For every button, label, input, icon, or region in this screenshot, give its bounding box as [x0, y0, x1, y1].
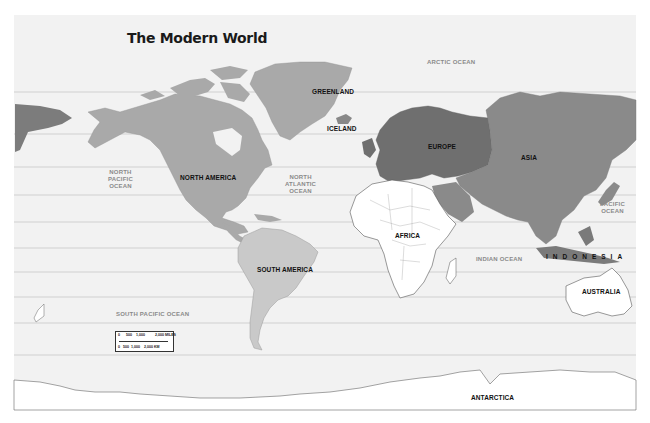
scale-miles-500: 500	[126, 333, 132, 337]
landmass-north-america	[88, 94, 272, 234]
label-north-atlantic-ocean: NORTH ATLANTIC OCEAN	[285, 174, 316, 195]
landmass-british-isles	[362, 138, 376, 158]
map-title: The Modern World	[127, 30, 267, 46]
landmass-madagascar	[446, 258, 456, 284]
label-north-pacific-ocean: NORTH PACIFIC OCEAN	[108, 169, 133, 190]
landmass-chukotka	[15, 104, 72, 152]
scale-km-0: 0	[118, 345, 120, 349]
scale-miles-0: 0	[118, 333, 120, 337]
scale-miles-2000: 2,000 MILES	[155, 333, 176, 337]
label-north-america: NORTH AMERICA	[180, 174, 236, 181]
world-map: The Modern World GREENLAND ICELAND NORTH…	[0, 0, 650, 423]
landmass-south-america	[238, 228, 318, 350]
scale-bar: 0 500 1,000 2,000 MILES 0 500 1,000 2,00…	[115, 331, 174, 352]
label-asia: ASIA	[521, 154, 537, 161]
landmass-iceland	[336, 114, 352, 124]
label-europe: EUROPE	[428, 143, 456, 150]
label-greenland: GREENLAND	[312, 88, 354, 95]
label-south-america: SOUTH AMERICA	[257, 266, 313, 273]
label-antarctica: ANTARCTICA	[471, 394, 514, 401]
scale-km-500: 500	[123, 345, 129, 349]
label-indonesia: INDONESIA	[546, 253, 627, 260]
label-arctic-ocean: ARCTIC OCEAN	[427, 59, 475, 66]
label-africa: AFRICA	[395, 232, 420, 239]
landmass-antarctica	[14, 370, 636, 410]
map-geography	[0, 0, 650, 423]
label-pacific-ocean: PACIFIC OCEAN	[600, 201, 625, 215]
scale-line	[119, 341, 168, 342]
landmass-asia	[456, 92, 636, 244]
label-iceland: ICELAND	[327, 125, 357, 132]
landmass-new-zealand	[34, 304, 44, 322]
scale-km-1000: 1,000	[131, 345, 140, 349]
scale-miles-1000: 1,000	[136, 333, 145, 337]
label-australia: AUSTRALIA	[582, 288, 620, 295]
label-south-pacific-ocean: SOUTH PACIFIC OCEAN	[116, 311, 189, 318]
label-indian-ocean: INDIAN OCEAN	[476, 256, 522, 263]
scale-km-2000: 2,000 KM	[144, 345, 160, 349]
